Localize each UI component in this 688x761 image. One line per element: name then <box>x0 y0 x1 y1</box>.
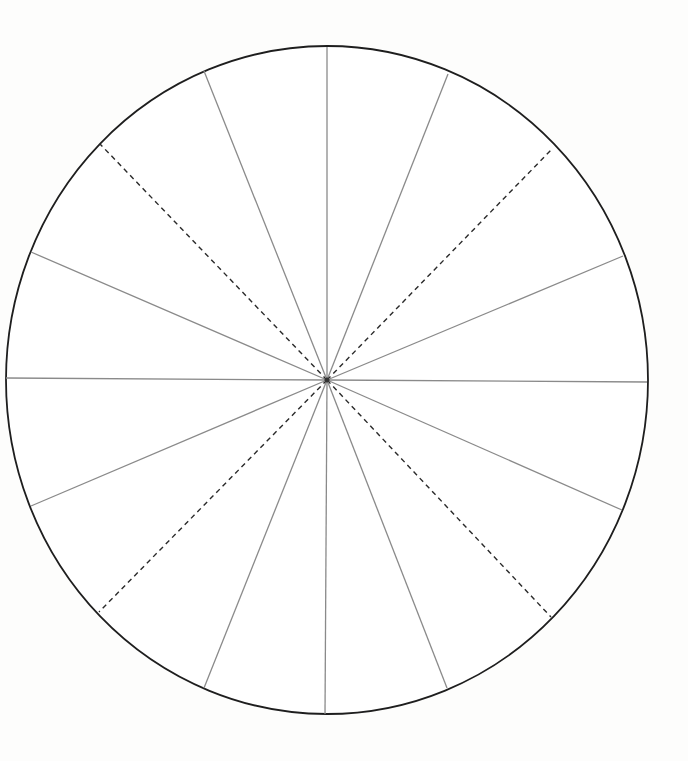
segmented-circle-diagram <box>0 0 688 761</box>
center-hub <box>325 378 330 383</box>
